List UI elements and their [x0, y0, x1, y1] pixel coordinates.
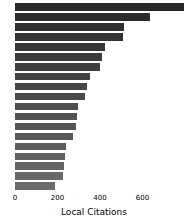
bar	[15, 103, 78, 111]
bar-row	[15, 143, 66, 151]
bar-row	[15, 13, 150, 21]
bar	[15, 83, 87, 91]
bar	[15, 63, 100, 71]
x-axis-tick-labels: 0200400600	[0, 193, 188, 205]
bar	[15, 133, 73, 141]
bar-row	[15, 23, 124, 31]
bar-row	[15, 172, 63, 180]
bar	[15, 13, 150, 21]
x-axis-line	[15, 191, 185, 192]
x-tick-label: 200	[51, 193, 64, 203]
bar	[15, 43, 105, 51]
bar	[15, 3, 184, 11]
bar-row	[15, 3, 184, 11]
bar-row	[15, 73, 90, 81]
x-tick-label: 400	[93, 193, 106, 203]
bar	[15, 162, 64, 170]
x-axis-title: Local Citations	[0, 206, 188, 218]
bar	[15, 23, 124, 31]
bar	[15, 123, 76, 131]
bar-row	[15, 43, 105, 51]
bar-row	[15, 83, 87, 91]
bar	[15, 93, 85, 101]
bar-row	[15, 103, 78, 111]
bar-row	[15, 53, 102, 61]
x-tick-label: 0	[13, 193, 17, 203]
bar	[15, 182, 55, 190]
bar-row	[15, 133, 73, 141]
bar-row	[15, 162, 64, 170]
bar-row	[15, 93, 85, 101]
bar-chart: 0200400600 Local Citations	[0, 0, 188, 221]
bar	[15, 153, 65, 161]
bar	[15, 143, 66, 151]
bar-row	[15, 33, 123, 41]
bar	[15, 172, 63, 180]
x-tick-label: 600	[136, 193, 149, 203]
bar-row	[15, 153, 65, 161]
bar	[15, 113, 77, 121]
bar	[15, 53, 102, 61]
bar-row	[15, 113, 77, 121]
plot-area	[15, 2, 185, 191]
bar	[15, 33, 123, 41]
bar-row	[15, 123, 76, 131]
bar-row	[15, 63, 100, 71]
bar-row	[15, 182, 55, 190]
bar	[15, 73, 90, 81]
